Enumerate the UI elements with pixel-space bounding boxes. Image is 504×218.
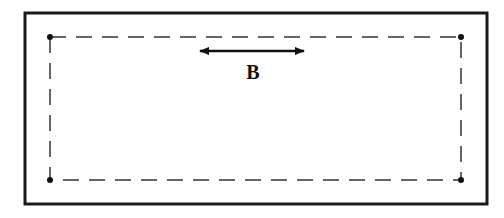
corner-dot-bottom-left bbox=[47, 177, 53, 183]
diagram-svg: B bbox=[0, 0, 504, 218]
region-label: B bbox=[246, 61, 259, 83]
inner-dashed-boundary bbox=[50, 37, 461, 180]
outer-frame bbox=[25, 13, 487, 204]
corner-dot-bottom-right bbox=[458, 177, 464, 183]
corner-dot-top-right bbox=[458, 34, 464, 40]
diagram-canvas: B bbox=[0, 0, 504, 218]
corner-dot-top-left bbox=[47, 34, 53, 40]
